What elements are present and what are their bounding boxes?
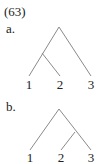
tree-b-leaf-1: 1 — [27, 151, 34, 164]
tree-b-diagram — [0, 0, 97, 164]
tree-b-leaf-2: 2 — [58, 151, 65, 164]
tree-b-leaf-3: 3 — [88, 151, 95, 164]
